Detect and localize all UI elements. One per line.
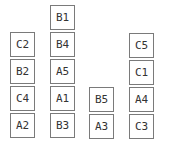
- block-a1: A1: [50, 86, 75, 111]
- block-c1: C1: [129, 60, 154, 85]
- block-a4: A4: [129, 87, 154, 112]
- block-b2: B2: [10, 59, 35, 84]
- block-b4: B4: [50, 32, 75, 57]
- block-a3: A3: [89, 114, 114, 139]
- block-c3: C3: [129, 114, 154, 139]
- block-c4: C4: [10, 86, 35, 111]
- block-c5: C5: [129, 33, 154, 58]
- block-a2: A2: [10, 113, 35, 138]
- block-c2: C2: [10, 32, 35, 57]
- block-a5: A5: [50, 59, 75, 84]
- block-b3: B3: [50, 113, 75, 138]
- block-b5: B5: [89, 87, 114, 112]
- block-b1: B1: [50, 5, 75, 30]
